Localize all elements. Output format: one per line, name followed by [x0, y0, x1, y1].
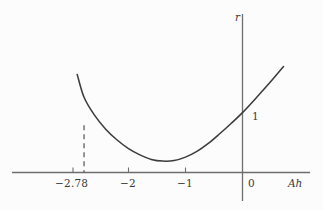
y-intercept-value-label: 1 [252, 111, 259, 122]
x-axis-label: Ah [288, 178, 302, 189]
y-axis-label: r [235, 12, 240, 23]
x-tick-label-zero: 0 [248, 178, 255, 189]
x-tick-label-neg2: −2 [120, 178, 136, 189]
x-tick-label-neg1: −1 [177, 178, 193, 189]
figure-plot-region: −2.78 −2 −1 0 1 r Ah [0, 0, 323, 210]
plot-canvas [0, 0, 323, 210]
x-tick-label-neg2p78: −2.78 [55, 178, 88, 189]
